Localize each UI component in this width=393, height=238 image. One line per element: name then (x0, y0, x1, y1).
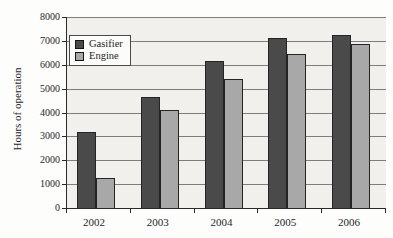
y-tick-mark (62, 65, 66, 66)
y-tick-label-5000: 5000 (20, 84, 60, 94)
gridline-8000 (67, 17, 386, 18)
bar-chart-figure: Hours of operation Gasifier Engine 01000… (0, 0, 393, 238)
y-tick-label-1000: 1000 (20, 179, 60, 189)
legend-item-engine: Engine (75, 50, 123, 62)
y-tick-label-4000: 4000 (20, 108, 60, 118)
bar-gasifier-2002 (77, 132, 96, 208)
y-tick-mark (62, 41, 66, 42)
y-tick-label-6000: 6000 (20, 60, 60, 70)
x-category-label-2005: 2005 (255, 216, 315, 228)
x-tick-mark (257, 209, 258, 213)
bar-engine-2002 (96, 178, 115, 208)
x-tick-mark (321, 209, 322, 213)
x-tick-mark (130, 209, 131, 213)
x-category-label-2006: 2006 (319, 216, 379, 228)
x-tick-mark (385, 209, 386, 213)
y-tick-label-0: 0 (20, 203, 60, 213)
y-tick-mark (62, 184, 66, 185)
y-tick-mark (62, 17, 66, 18)
legend-label-gasifier: Gasifier (89, 38, 123, 50)
x-category-label-2002: 2002 (64, 216, 124, 228)
bar-gasifier-2003 (141, 97, 160, 208)
gasifier-swatch-icon (75, 40, 84, 49)
bar-gasifier-2006 (332, 35, 351, 208)
x-tick-mark (194, 209, 195, 213)
engine-swatch-icon (75, 52, 84, 61)
bar-gasifier-2005 (268, 38, 287, 208)
y-tick-mark (62, 113, 66, 114)
x-category-label-2004: 2004 (192, 216, 252, 228)
y-tick-label-3000: 3000 (20, 131, 60, 141)
bar-engine-2005 (287, 54, 306, 208)
legend: Gasifier Engine (69, 35, 131, 66)
bar-gasifier-2004 (205, 61, 224, 208)
y-tick-label-2000: 2000 (20, 155, 60, 165)
y-tick-mark (62, 160, 66, 161)
x-tick-mark (66, 209, 67, 213)
x-category-label-2003: 2003 (128, 216, 188, 228)
y-tick-mark (62, 89, 66, 90)
y-tick-mark (62, 136, 66, 137)
y-tick-label-7000: 7000 (20, 36, 60, 46)
legend-label-engine: Engine (89, 50, 119, 62)
bar-engine-2004 (224, 79, 243, 208)
y-tick-label-8000: 8000 (20, 12, 60, 22)
bar-engine-2003 (160, 110, 179, 208)
bar-engine-2006 (351, 44, 370, 208)
legend-item-gasifier: Gasifier (75, 38, 123, 50)
